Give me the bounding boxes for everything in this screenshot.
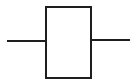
component-body-rectangle xyxy=(45,6,92,79)
right-lead-wire xyxy=(91,39,130,41)
diagram-canvas xyxy=(0,0,139,82)
left-lead-wire xyxy=(7,40,47,42)
